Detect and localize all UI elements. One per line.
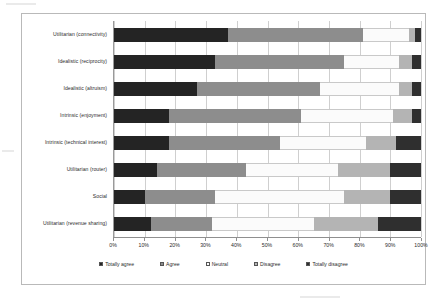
legend-swatch-icon (160, 262, 164, 266)
bar-segment[interactable] (215, 55, 344, 69)
bar-row (114, 183, 421, 210)
bar-segment[interactable] (338, 163, 390, 177)
bar-row (114, 129, 421, 156)
category-label: Utilitarian (router) (22, 156, 112, 183)
plot-area (113, 21, 421, 237)
x-axis-tick (113, 238, 114, 241)
bar-row (114, 75, 421, 102)
stacked-bar[interactable] (114, 109, 421, 123)
x-axis-tick (390, 238, 391, 241)
bar-segment[interactable] (399, 82, 411, 96)
x-axis-tick (205, 238, 206, 241)
bar-segment[interactable] (396, 136, 421, 150)
bar-segment[interactable] (157, 163, 246, 177)
legend-item[interactable]: Totally agree (99, 261, 134, 267)
legend-item[interactable]: Agree (160, 261, 180, 267)
legend-item[interactable]: Totally disagree (306, 261, 347, 267)
x-axis-tick-label: 70% (323, 242, 333, 248)
bar-segment[interactable] (378, 217, 421, 231)
x-axis-tick-label: 20% (169, 242, 179, 248)
scan-artifact-top-left (6, 3, 36, 5)
legend-label: Agree (166, 261, 180, 267)
bar-segment[interactable] (169, 136, 280, 150)
bar-segment[interactable] (412, 55, 421, 69)
category-label: Utilitarian (connectivity) (22, 21, 112, 48)
x-axis-tick-label: 10% (139, 242, 149, 248)
bar-segment[interactable] (344, 55, 399, 69)
category-label: Utilitarian (revenue sharing) (22, 210, 112, 237)
bar-segment[interactable] (314, 217, 378, 231)
stacked-bar[interactable] (114, 28, 421, 42)
bar-segment[interactable] (114, 55, 215, 69)
x-axis-tick (144, 238, 145, 241)
x-axis-tick-label: 50% (262, 242, 272, 248)
stacked-bar[interactable] (114, 136, 421, 150)
stacked-bar[interactable] (114, 217, 421, 231)
bar-segment[interactable] (145, 190, 216, 204)
bar-series-group (114, 21, 421, 237)
bar-segment[interactable] (114, 28, 228, 42)
x-axis-tick (236, 238, 237, 241)
x-axis-tick (298, 238, 299, 241)
bar-segment[interactable] (197, 82, 320, 96)
x-axis-tick-label: 80% (354, 242, 364, 248)
category-label: Idealistic (altruism) (22, 75, 112, 102)
x-axis-tick-label: 90% (385, 242, 395, 248)
legend-label: Totally disagree (312, 261, 347, 267)
x-axis-tick (421, 238, 422, 241)
legend-item[interactable]: Disagree (254, 261, 280, 267)
bar-row (114, 102, 421, 129)
stacked-bar[interactable] (114, 82, 421, 96)
bar-segment[interactable] (366, 136, 397, 150)
bar-segment[interactable] (114, 82, 197, 96)
bar-segment[interactable] (320, 82, 400, 96)
bar-segment[interactable] (114, 136, 169, 150)
stacked-bar[interactable] (114, 55, 421, 69)
chart-plot-wrapper: Utilitarian (connectivity)Idealistic (re… (22, 14, 425, 284)
stacked-bar[interactable] (114, 190, 421, 204)
chart-container: Utilitarian (connectivity)Idealistic (re… (21, 13, 426, 285)
category-label: Idealistic (reciprocity) (22, 48, 112, 75)
legend-label: Disagree (260, 261, 280, 267)
chart-legend: Totally agreeAgreeNeutralDisagreeTotally… (22, 261, 425, 267)
bar-segment[interactable] (151, 217, 212, 231)
bar-segment[interactable] (169, 109, 301, 123)
x-axis-tick (329, 238, 330, 241)
bar-segment[interactable] (114, 217, 151, 231)
bar-row (114, 210, 421, 237)
bar-segment[interactable] (301, 109, 393, 123)
bar-segment[interactable] (390, 163, 421, 177)
bar-segment[interactable] (393, 109, 411, 123)
x-axis-tick-label: 0% (109, 242, 117, 248)
bar-segment[interactable] (228, 28, 363, 42)
bar-row (114, 48, 421, 75)
bar-segment[interactable] (212, 217, 313, 231)
bar-segment[interactable] (114, 109, 169, 123)
bar-segment[interactable] (280, 136, 366, 150)
x-axis-tick (267, 238, 268, 241)
bar-segment[interactable] (412, 82, 421, 96)
bar-segment[interactable] (246, 163, 338, 177)
bar-segment[interactable] (399, 55, 411, 69)
x-axis-tick-label: 30% (200, 242, 210, 248)
bar-segment[interactable] (114, 190, 145, 204)
bar-segment[interactable] (215, 190, 344, 204)
bar-segment[interactable] (344, 190, 390, 204)
legend-swatch-icon (254, 262, 258, 266)
scan-artifact-bottom (300, 296, 340, 298)
stacked-bar[interactable] (114, 163, 421, 177)
category-label: Intrinsic (enjoyment) (22, 102, 112, 129)
bar-segment[interactable] (114, 163, 157, 177)
x-axis-tick-label: 60% (293, 242, 303, 248)
bar-row (114, 156, 421, 183)
category-axis: Utilitarian (connectivity)Idealistic (re… (22, 21, 112, 237)
bar-segment[interactable] (390, 190, 421, 204)
x-axis-tick-label: 40% (231, 242, 241, 248)
x-axis-tick (175, 238, 176, 241)
x-axis-tick-labels: 0%10%20%30%40%50%60%70%80%90%100% (113, 242, 421, 252)
bar-segment[interactable] (415, 28, 421, 42)
category-label: Social (22, 183, 112, 210)
bar-segment[interactable] (412, 109, 421, 123)
bar-segment[interactable] (363, 28, 409, 42)
legend-item[interactable]: Neutral (206, 261, 228, 267)
